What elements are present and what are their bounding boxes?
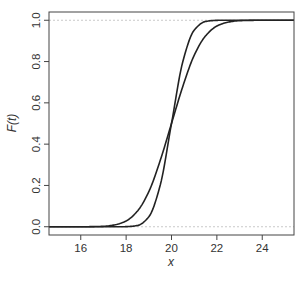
x-tick-label: 24 xyxy=(256,242,269,254)
y-tick-label: 0.0 xyxy=(30,219,42,235)
y-tick-label: 0.2 xyxy=(30,177,42,193)
cdf-chart: 1618202224 0.00.20.40.60.81.0 x F(t) xyxy=(0,0,307,282)
cdf-line-steep xyxy=(49,20,294,226)
x-tick-label: 16 xyxy=(74,242,87,254)
y-tick-label: 0.4 xyxy=(30,136,42,153)
y-tick-label: 1.0 xyxy=(30,12,42,28)
x-axis-title: x xyxy=(167,255,175,269)
cdf-curves xyxy=(49,20,294,226)
y-tick-label: 0.8 xyxy=(30,54,42,70)
y-tick-label: 0.6 xyxy=(30,95,42,111)
x-axis-ticks: 1618202224 xyxy=(74,235,269,254)
y-axis-ticks: 0.00.20.40.60.81.0 xyxy=(30,12,49,234)
y-axis-title: F(t) xyxy=(5,114,19,133)
x-tick-label: 20 xyxy=(165,242,178,254)
x-tick-label: 22 xyxy=(210,242,223,254)
x-tick-label: 18 xyxy=(120,242,133,254)
